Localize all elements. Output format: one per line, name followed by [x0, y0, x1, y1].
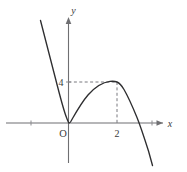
y-axis-arrowhead — [66, 17, 72, 24]
origin-label: O — [59, 128, 67, 139]
plot-canvas: x y O 2 4 — [0, 0, 187, 172]
x-axis-label: x — [167, 118, 173, 129]
y-axis-label: y — [70, 5, 76, 16]
x-axis-arrowhead — [157, 120, 164, 126]
x-tick-label-2: 2 — [115, 128, 120, 139]
cubic-function-graph-figure: x y O 2 4 — [0, 0, 187, 172]
cubic-curve — [41, 21, 153, 166]
y-tick-label-4: 4 — [59, 77, 64, 88]
